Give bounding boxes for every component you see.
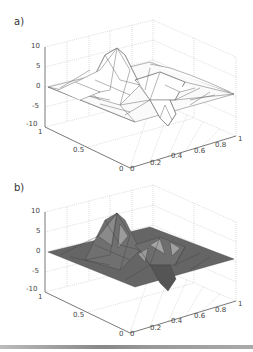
a-y-tick-0: 0	[119, 166, 123, 173]
a-x-tick-0: 0	[130, 166, 134, 173]
b-z-tick-5: 5	[36, 228, 40, 235]
a-z-tick-5: 5	[36, 63, 40, 70]
b-y-tick-1: 1	[38, 294, 42, 301]
a-z-tick-minus10: -10	[26, 121, 37, 128]
panel-a-surface	[48, 48, 234, 126]
b-x-tick-0.2: 0.2	[150, 325, 161, 332]
bottom-divider	[0, 345, 253, 349]
a-x-tick-0.2: 0.2	[150, 160, 161, 167]
b-x-tick-0.6: 0.6	[194, 313, 205, 320]
b-z-tick-0: 0	[36, 248, 40, 255]
a-x-tick-0.4: 0.4	[171, 153, 182, 160]
b-x-tick-0: 0	[130, 331, 134, 338]
a-x-tick-0.6: 0.6	[194, 148, 205, 155]
a-y-tick-0.5: 0.5	[73, 147, 84, 154]
a-z-tick-10: 10	[31, 43, 40, 50]
a-x-tick-1: 1	[238, 136, 242, 143]
b-x-tick-1: 1	[238, 301, 242, 308]
b-x-tick-0.8: 0.8	[215, 307, 226, 314]
a-z-tick-0: 0	[36, 83, 40, 90]
b-z-tick-minus10: -10	[26, 286, 37, 293]
b-y-tick-0: 0	[119, 331, 123, 338]
b-y-tick-0.5: 0.5	[73, 312, 84, 319]
b-z-tick-minus5: -5	[32, 268, 39, 275]
panel-b: b)	[0, 176, 253, 352]
panel-b-surface	[48, 213, 234, 291]
b-z-tick-10: 10	[31, 208, 40, 215]
a-y-tick-1: 1	[38, 129, 42, 136]
panel-a: a)	[0, 0, 253, 176]
a-x-tick-0.8: 0.8	[215, 142, 226, 149]
b-x-tick-0.4: 0.4	[171, 318, 182, 325]
a-z-tick-minus5: -5	[32, 103, 39, 110]
panel-b-plot	[0, 176, 253, 352]
